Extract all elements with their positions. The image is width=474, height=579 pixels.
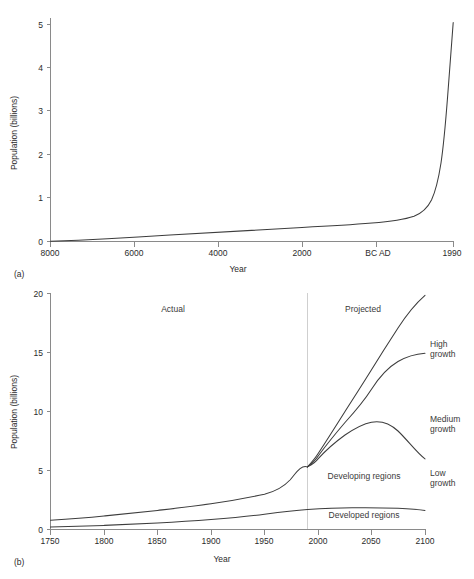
panel-a-xtick-6000: 6000 — [125, 248, 144, 258]
panel-b-y-ticks — [47, 294, 51, 530]
panel-b-axes — [51, 293, 426, 530]
panel-b-medium-growth-curve — [308, 353, 426, 467]
panel-a-ylabel: Population (billions) — [9, 96, 19, 170]
panel-b-label-medium-growth-line1: Medium — [430, 414, 460, 424]
panel-b-annotation-projected: Projected — [345, 304, 381, 314]
panel-b-xtick-2000: 2000 — [309, 536, 328, 546]
panel-b-xtick-1750: 1750 — [41, 536, 60, 546]
panel-a-xtick-2000: 2000 — [293, 248, 312, 258]
panel-b-annotation-actual: Actual — [161, 304, 185, 314]
panel-a-xtick-1990: 1990 — [443, 248, 462, 258]
panel-b-svg: 20 15 10 5 0 1750 1800 1850 1900 1950 20… — [0, 290, 474, 579]
panel-a-ytick-4: 4 — [38, 63, 43, 73]
panel-b-x-ticks — [51, 530, 426, 535]
panel-a-ytick-3: 3 — [38, 106, 43, 116]
panel-b-ytick-10: 10 — [34, 407, 44, 417]
panel-b-ytick-5: 5 — [38, 466, 43, 476]
panel-a-ytick-5: 5 — [38, 20, 43, 30]
panel-b-label-medium-growth-line2: growth — [430, 424, 456, 434]
panel-b-ylabel: Population (billions) — [9, 375, 19, 449]
panel-b-xtick-1850: 1850 — [148, 536, 167, 546]
chart-panel-b: 20 15 10 5 0 1750 1800 1850 1900 1950 20… — [0, 290, 474, 579]
panel-b-label-high-growth-line1: High — [430, 339, 448, 349]
panel-b-xtick-1800: 1800 — [95, 536, 114, 546]
panel-b-xtick-2100: 2100 — [416, 536, 435, 546]
panel-a-axes — [51, 18, 454, 242]
panel-a-x-ticks — [51, 242, 454, 247]
panel-a-y-ticks — [47, 25, 51, 242]
panel-b-xtick-1950: 1950 — [255, 536, 274, 546]
panel-b-total-actual-curve — [51, 466, 308, 520]
panel-b-xtick-1900: 1900 — [202, 536, 221, 546]
panel-a-xtick-8000: 8000 — [41, 248, 60, 258]
panel-b-label-low-growth-line2: growth — [430, 478, 456, 488]
panel-a-xlabel: Year — [229, 264, 246, 274]
panel-a-xtick-bc-ad: BC AD — [365, 248, 391, 258]
panel-a-xtick-4000: 4000 — [209, 248, 228, 258]
panel-b-label-low-growth-line1: Low — [430, 468, 446, 478]
chart-panel-a: 5 4 3 2 1 0 8000 6000 4000 2000 BC AD 19… — [0, 0, 474, 290]
panel-b-ytick-15: 15 — [34, 348, 44, 358]
panel-b-label-high-growth-line2: growth — [430, 349, 456, 359]
panel-a-letter: (a) — [14, 269, 25, 279]
panel-a-ytick-0: 0 — [38, 237, 43, 247]
panel-b-label-developed-regions: Developed regions — [329, 510, 400, 520]
panel-a-world-population-curve — [51, 23, 454, 242]
panel-b-letter: (b) — [14, 557, 25, 567]
panel-b-ytick-20: 20 — [34, 290, 44, 299]
panel-b-xlabel: Year — [213, 554, 230, 564]
panel-a-ytick-2: 2 — [38, 150, 43, 160]
panel-b-xtick-2050: 2050 — [362, 536, 381, 546]
panel-b-label-developing-regions: Developing regions — [328, 471, 401, 481]
panel-b-ytick-0: 0 — [38, 525, 43, 535]
panel-a-ytick-1: 1 — [38, 193, 43, 203]
figure-page: 5 4 3 2 1 0 8000 6000 4000 2000 BC AD 19… — [0, 0, 474, 579]
panel-b-low-growth-curve — [308, 422, 426, 467]
panel-a-svg: 5 4 3 2 1 0 8000 6000 4000 2000 BC AD 19… — [0, 0, 474, 290]
